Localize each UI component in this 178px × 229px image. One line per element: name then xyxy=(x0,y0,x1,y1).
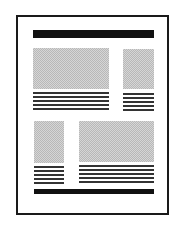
text-lines-bottom-left xyxy=(34,166,64,186)
text-line xyxy=(33,108,109,110)
text-lines-top-right xyxy=(123,93,154,113)
image-placeholder-top-left xyxy=(33,48,109,89)
text-line xyxy=(33,100,109,102)
text-line xyxy=(123,97,154,99)
text-lines-bottom-right xyxy=(79,165,154,185)
text-line xyxy=(33,104,109,106)
text-lines-top-left xyxy=(33,92,109,112)
text-line xyxy=(34,170,64,172)
text-line xyxy=(123,101,154,103)
header-bar xyxy=(33,30,154,38)
text-line xyxy=(123,105,154,107)
text-line xyxy=(123,109,154,111)
image-placeholder-top-right xyxy=(123,49,154,89)
text-line xyxy=(34,166,64,168)
text-line xyxy=(79,177,154,179)
page-frame xyxy=(16,15,169,215)
image-placeholder-bottom-right xyxy=(79,121,154,162)
text-line xyxy=(79,169,154,171)
text-line xyxy=(34,178,64,180)
text-line xyxy=(34,174,64,176)
text-line xyxy=(79,165,154,167)
text-line xyxy=(123,93,154,95)
text-line xyxy=(79,173,154,175)
text-line xyxy=(79,181,154,183)
text-line xyxy=(34,182,64,184)
footer-bar xyxy=(34,189,154,194)
text-line xyxy=(33,96,109,98)
text-line xyxy=(33,92,109,94)
image-placeholder-bottom-left xyxy=(34,121,64,163)
